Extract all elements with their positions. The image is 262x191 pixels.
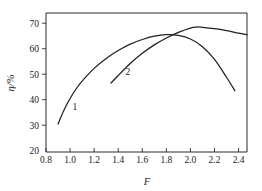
x-tick-label: 1.2: [88, 155, 100, 165]
x-tick-label: 2.0: [184, 155, 196, 165]
curve-label-1: 1: [73, 102, 78, 112]
curve-label-2: 2: [125, 67, 130, 77]
x-tick-label: 1.4: [112, 155, 124, 165]
x-tick-label: 1.0: [64, 155, 76, 165]
x-tick-label: 2.4: [233, 155, 245, 165]
line-chart: 0.81.01.21.41.61.82.02.22.4 203040506070…: [0, 0, 262, 191]
y-tick-label: 40: [30, 95, 40, 105]
x-tick-label: 0.8: [40, 155, 52, 165]
y-axis-title: η/%: [5, 74, 16, 91]
y-tick-label: 60: [30, 44, 40, 54]
x-axis-tick-labels: 0.81.01.21.41.61.82.02.22.4: [40, 155, 245, 165]
y-tick-label: 50: [30, 70, 40, 80]
y-tick-label: 30: [30, 121, 40, 131]
x-tick-label: 1.6: [136, 155, 148, 165]
chart-figure: 0.81.01.21.41.61.82.02.22.4 203040506070…: [0, 0, 262, 191]
y-tick-label: 20: [30, 146, 40, 156]
x-axis-title: F: [143, 176, 151, 187]
y-tick-label: 70: [30, 19, 40, 29]
x-tick-label: 2.2: [209, 155, 221, 165]
x-tick-label: 1.8: [160, 155, 172, 165]
